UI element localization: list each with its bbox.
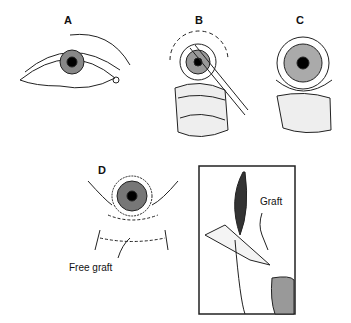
- panel-b-eye: [170, 31, 248, 137]
- panel-label-d: D: [98, 164, 106, 176]
- caption-graft: Graft: [260, 196, 282, 207]
- panel-e-cross-section: [199, 166, 295, 314]
- panel-a-eye: [20, 34, 130, 87]
- panel-label-b: B: [195, 14, 203, 26]
- panel-label-c: C: [296, 14, 304, 26]
- panel-d-eye: [88, 176, 178, 258]
- panel-c-eye: [276, 37, 332, 133]
- panel-label-a: A: [64, 14, 72, 26]
- surgical-illustration: [0, 0, 351, 323]
- caption-free-graft: Free graft: [69, 262, 112, 273]
